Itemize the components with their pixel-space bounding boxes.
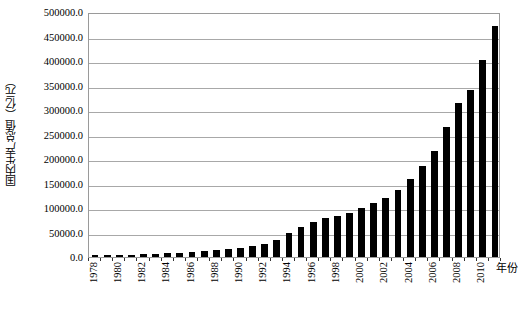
bar bbox=[298, 227, 305, 257]
y-axis-tick-label: 300000.0 bbox=[44, 106, 83, 117]
x-axis-tick bbox=[330, 258, 331, 261]
x-axis-tick-label: 1994 bbox=[282, 262, 293, 283]
x-axis-tick bbox=[379, 258, 380, 261]
bar bbox=[322, 218, 329, 257]
bar bbox=[407, 179, 414, 257]
y-axis-tick-label: 100000.0 bbox=[44, 204, 83, 215]
x-axis-tick-label: 1998 bbox=[331, 262, 342, 283]
x-axis-tick bbox=[488, 258, 489, 261]
x-axis-tick bbox=[112, 258, 113, 261]
x-axis-tick-labels: 1978198019821984198619881990199219941996… bbox=[88, 262, 500, 310]
bar bbox=[346, 213, 353, 257]
plot-area bbox=[88, 13, 500, 258]
x-axis-tick bbox=[149, 258, 150, 261]
x-axis-tick-label: 2010 bbox=[476, 262, 487, 283]
bar bbox=[419, 166, 426, 257]
x-axis-title: 年份 bbox=[496, 263, 518, 274]
x-axis-tick bbox=[88, 258, 89, 261]
x-axis-tick-label: 1980 bbox=[113, 262, 124, 283]
x-axis-tick-label: 2006 bbox=[428, 262, 439, 283]
x-axis-tick bbox=[427, 258, 428, 261]
x-axis-tick bbox=[318, 258, 319, 261]
x-axis-tick bbox=[221, 258, 222, 261]
bar bbox=[201, 251, 208, 257]
x-axis-tick bbox=[391, 258, 392, 261]
bar bbox=[164, 253, 171, 257]
x-axis-tick-label: 2008 bbox=[452, 262, 463, 283]
x-axis-tick bbox=[367, 258, 368, 261]
y-axis-tick-label: 200000.0 bbox=[44, 155, 83, 166]
bar bbox=[467, 90, 474, 257]
y-axis-tick-label: 150000.0 bbox=[44, 179, 83, 190]
x-axis-tick-label: 1996 bbox=[307, 262, 318, 283]
bar bbox=[213, 250, 220, 257]
y-axis-tick-labels: 500000.0450000.0400000.0350000.0300000.0… bbox=[18, 0, 86, 313]
x-axis-tick bbox=[452, 258, 453, 261]
x-axis-tick bbox=[209, 258, 210, 261]
x-axis-tick bbox=[294, 258, 295, 261]
x-axis-tick bbox=[258, 258, 259, 261]
x-axis-tick bbox=[342, 258, 343, 261]
y-axis-tick-label: 400000.0 bbox=[44, 57, 83, 68]
x-axis-tick bbox=[355, 258, 356, 261]
x-axis-tick bbox=[439, 258, 440, 261]
bar bbox=[116, 255, 123, 257]
y-axis-tick-label: 250000.0 bbox=[44, 130, 83, 141]
bar bbox=[286, 233, 293, 257]
x-axis-tick-label: 1988 bbox=[210, 262, 221, 283]
bar bbox=[92, 255, 99, 257]
x-axis-tick bbox=[403, 258, 404, 261]
bar bbox=[176, 253, 183, 257]
bars-layer bbox=[89, 14, 499, 257]
x-axis-tick bbox=[197, 258, 198, 261]
bar bbox=[479, 60, 486, 257]
x-axis-tick bbox=[124, 258, 125, 261]
y-axis-tick-label: 50000.0 bbox=[49, 228, 83, 239]
x-axis-tick bbox=[185, 258, 186, 261]
gdp-bar-chart: 国内生产总值（亿元） 500000.0450000.0400000.035000… bbox=[0, 0, 531, 313]
x-axis-tick bbox=[476, 258, 477, 261]
y-axis-title-text: 国内生产总值（亿元） bbox=[6, 76, 17, 186]
x-axis-tick bbox=[246, 258, 247, 261]
x-axis-tick bbox=[136, 258, 137, 261]
x-axis-tick-label: 1990 bbox=[234, 262, 245, 283]
bar bbox=[261, 244, 268, 257]
bar bbox=[237, 248, 244, 257]
bar bbox=[443, 127, 450, 257]
x-axis-tick bbox=[500, 258, 501, 261]
x-axis-tick-label: 1982 bbox=[137, 262, 148, 283]
bar bbox=[431, 151, 438, 257]
x-axis-tick bbox=[306, 258, 307, 261]
bar bbox=[225, 249, 232, 257]
bar bbox=[310, 222, 317, 257]
x-axis-tick bbox=[161, 258, 162, 261]
bar bbox=[455, 103, 462, 257]
y-axis-tick-label: 450000.0 bbox=[44, 32, 83, 43]
bar bbox=[189, 252, 196, 257]
x-axis-tick-label: 1986 bbox=[186, 262, 197, 283]
bar bbox=[382, 198, 389, 257]
x-axis-tick-label: 1992 bbox=[258, 262, 269, 283]
x-axis-tick-label: 1984 bbox=[161, 262, 172, 283]
x-axis-tick bbox=[100, 258, 101, 261]
x-axis-tick bbox=[270, 258, 271, 261]
x-axis-tick bbox=[282, 258, 283, 261]
x-axis-tick bbox=[233, 258, 234, 261]
bar bbox=[104, 255, 111, 257]
x-axis-tick-label: 2004 bbox=[404, 262, 415, 283]
y-axis-tick-label: 0.0 bbox=[70, 253, 83, 264]
bar bbox=[140, 254, 147, 257]
bar bbox=[152, 254, 159, 257]
x-axis-tick bbox=[464, 258, 465, 261]
bar bbox=[395, 190, 402, 257]
x-axis-tick-label: 1978 bbox=[89, 262, 100, 283]
bar bbox=[492, 26, 499, 257]
y-axis-tick-label: 500000.0 bbox=[44, 8, 83, 19]
x-axis-tick-label: 2000 bbox=[355, 262, 366, 283]
bar bbox=[370, 203, 377, 257]
bar bbox=[128, 255, 135, 257]
bar bbox=[334, 216, 341, 257]
x-axis-tick-label: 2002 bbox=[379, 262, 390, 283]
x-axis-tick bbox=[415, 258, 416, 261]
bar bbox=[249, 246, 256, 257]
